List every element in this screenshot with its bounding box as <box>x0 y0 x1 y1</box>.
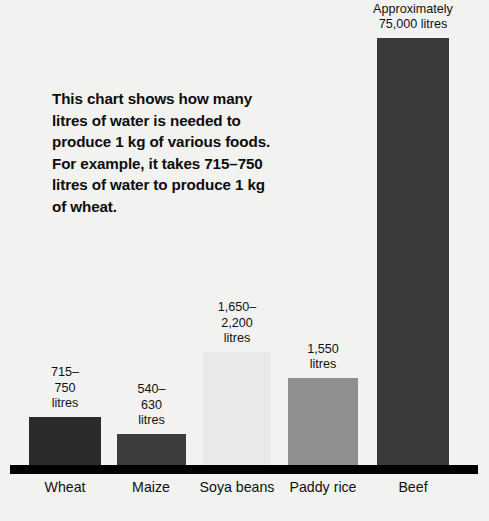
bar-group-beef: Approximately 75,000 litres <box>377 38 449 471</box>
bar-value-label-soya-beans: 1,650– 2,200 litres <box>218 300 257 347</box>
bar-soya-beans <box>203 352 271 471</box>
category-label-paddy-rice: Paddy rice <box>289 479 356 495</box>
category-label-soya-beans: Soya beans <box>200 479 275 495</box>
x-axis-baseline <box>10 465 478 474</box>
category-label-maize: Maize <box>132 479 170 495</box>
bar-value-label-maize: 540–630 litres <box>134 382 169 429</box>
bar-value-label-beef: Approximately 75,000 litres <box>373 2 453 33</box>
bar-value-label-paddy-rice: 1,550 litres <box>306 342 341 373</box>
category-label-beef: Beef <box>398 479 427 495</box>
bar-group-wheat: 715–750 litres <box>29 417 101 471</box>
bar-paddy-rice <box>288 378 358 471</box>
bar-beef <box>377 38 449 471</box>
bar-value-label-wheat: 715–750 litres <box>47 365 83 412</box>
bar-wheat <box>29 417 101 471</box>
bar-group-soya-beans: 1,650– 2,200 litres <box>203 352 271 471</box>
bar-group-paddy-rice: 1,550 litres <box>288 378 358 471</box>
water-footprint-bar-chart: This chart shows how many litres of wate… <box>0 0 489 521</box>
category-label-wheat: Wheat <box>44 479 85 495</box>
x-axis-category-labels: Wheat Maize Soya beans Paddy rice Beef <box>0 479 489 509</box>
plot-area: 715–750 litres 540–630 litres 1,650– 2,2… <box>0 0 489 471</box>
